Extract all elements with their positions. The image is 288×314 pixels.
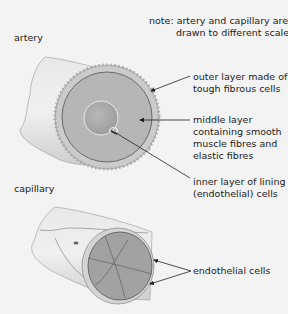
outer-layer-label-2: tough fibrous cells <box>193 83 280 95</box>
endothelial-leader-top <box>154 260 191 271</box>
note-line1: artery and capillary are <box>177 15 288 26</box>
note-prefix: note: <box>149 15 174 26</box>
artery-title: artery <box>14 32 43 44</box>
capillary-illustration <box>32 207 154 304</box>
endothelial-cells-label: endothelial cells <box>193 265 270 277</box>
middle-layer-label-1: middle layer <box>193 114 252 126</box>
middle-layer-label-4: elastic fibres <box>193 150 253 162</box>
endothelial-leader-bottom <box>150 271 191 284</box>
note-line2: drawn to different scales <box>176 27 288 39</box>
middle-layer-label-2: containing smooth <box>193 126 282 138</box>
capillary-title: capillary <box>14 183 54 195</box>
inner-layer-label-1: inner layer of lining <box>193 176 285 188</box>
scale-note: note: artery and capillary are <box>149 15 288 27</box>
outer-layer-leader <box>151 76 190 91</box>
middle-layer-label-3: muscle fibres and <box>193 138 277 150</box>
artery-illustration <box>20 57 159 169</box>
inner-layer-label-2: (endothelial) cells <box>193 188 278 200</box>
outer-layer-label-1: outer layer made of <box>193 71 287 83</box>
